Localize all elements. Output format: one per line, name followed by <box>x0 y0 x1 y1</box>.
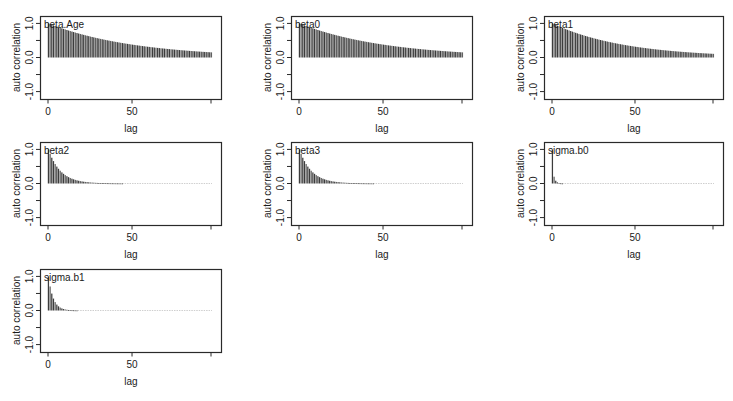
y-axis-label: auto correlation <box>262 23 273 92</box>
y-axis-label: auto correlation <box>11 149 22 218</box>
panel-title: beta2 <box>44 145 69 156</box>
y-tick-label: -1.0 <box>24 336 35 354</box>
y-tick-label: 1.0 <box>24 142 35 156</box>
x-tick-label: 50 <box>377 106 389 117</box>
x-axis: 050lag <box>549 226 713 260</box>
x-axis: 050lag <box>296 226 462 260</box>
y-tick-label: 0.0 <box>24 50 35 64</box>
y-tick-label: 1.0 <box>24 269 35 283</box>
y-tick-label: -1.0 <box>528 83 539 101</box>
x-tick-label: 0 <box>549 232 555 243</box>
x-tick-label: 0 <box>45 232 51 243</box>
y-axis-label: auto correlation <box>11 276 22 345</box>
y-axis-label: auto correlation <box>11 23 22 92</box>
acf-panel-beta3: beta3-1.00.01.0auto correlation050lag <box>262 142 473 259</box>
y-axis: -1.00.01.0auto correlation <box>11 269 40 353</box>
y-axis: -1.00.01.0auto correlation <box>515 142 544 226</box>
acf-panel-beta-Age: beta.Age-1.00.01.0auto correlation050lag <box>11 16 222 133</box>
y-tick-label: -1.0 <box>275 83 286 101</box>
acf-plot-grid: beta.Age-1.00.01.0auto correlation050lag… <box>0 0 733 401</box>
x-tick-label: 50 <box>126 106 138 117</box>
x-tick-label: 50 <box>629 232 641 243</box>
y-tick-label: -1.0 <box>528 209 539 227</box>
panel-title: sigma.b0 <box>548 145 589 156</box>
y-axis-label: auto correlation <box>515 149 526 218</box>
acf-bars <box>299 23 463 57</box>
acf-figure: beta.Age-1.00.01.0auto correlation050lag… <box>0 0 733 401</box>
panel-title: beta1 <box>548 19 573 30</box>
y-tick-label: 1.0 <box>275 16 286 30</box>
x-axis: 050lag <box>296 100 462 134</box>
y-tick-label: 1.0 <box>275 142 286 156</box>
y-tick-label: 0.0 <box>24 176 35 190</box>
acf-panel-beta2: beta2-1.00.01.0auto correlation050lag <box>11 142 222 259</box>
x-tick-label: 50 <box>377 232 389 243</box>
y-axis-label: auto correlation <box>262 149 273 218</box>
x-tick-label: 0 <box>296 106 302 117</box>
panel-title: sigma.b1 <box>44 272 85 283</box>
acf-panel-sigma-b0: sigma.b0-1.00.01.0auto correlation050lag <box>515 142 724 259</box>
acf-bars <box>48 149 212 184</box>
x-tick-label: 0 <box>45 106 51 117</box>
x-axis-label: lag <box>124 123 137 134</box>
acf-panel-sigma-b1: sigma.b1-1.00.01.0auto correlation050lag <box>11 269 222 386</box>
y-tick-label: 0.0 <box>528 50 539 64</box>
x-tick-label: 0 <box>549 106 555 117</box>
panel-title: beta.Age <box>44 19 84 30</box>
y-tick-label: 0.0 <box>528 176 539 190</box>
y-axis: -1.00.01.0auto correlation <box>262 142 291 226</box>
x-tick-label: 50 <box>126 232 138 243</box>
x-axis-label: lag <box>375 249 388 260</box>
x-axis: 050lag <box>45 353 211 387</box>
y-axis: -1.00.01.0auto correlation <box>262 16 291 100</box>
x-tick-label: 0 <box>45 359 51 370</box>
x-axis: 050lag <box>45 226 211 260</box>
y-tick-label: 0.0 <box>275 176 286 190</box>
x-axis-label: lag <box>627 123 640 134</box>
y-axis: -1.00.01.0auto correlation <box>515 16 544 100</box>
x-axis: 050lag <box>45 100 211 134</box>
y-tick-label: 0.0 <box>275 50 286 64</box>
y-axis: -1.00.01.0auto correlation <box>11 16 40 100</box>
acf-panel-beta1: beta1-1.00.01.0auto correlation050lag <box>515 16 724 133</box>
y-axis: -1.00.01.0auto correlation <box>11 142 40 226</box>
y-axis-label: auto correlation <box>515 23 526 92</box>
y-tick-label: -1.0 <box>24 83 35 101</box>
x-axis-label: lag <box>124 249 137 260</box>
panel-title: beta0 <box>295 19 320 30</box>
y-tick-label: 1.0 <box>528 142 539 156</box>
y-tick-label: 0.0 <box>24 303 35 317</box>
y-tick-label: 1.0 <box>528 16 539 30</box>
y-tick-label: -1.0 <box>24 209 35 227</box>
panel-title: beta3 <box>295 145 320 156</box>
y-tick-label: 1.0 <box>24 16 35 30</box>
x-tick-label: 50 <box>126 359 138 370</box>
x-axis-label: lag <box>375 123 388 134</box>
acf-panel-beta0: beta0-1.00.01.0auto correlation050lag <box>262 16 473 133</box>
y-tick-label: -1.0 <box>275 209 286 227</box>
x-tick-label: 50 <box>629 106 641 117</box>
x-tick-label: 0 <box>296 232 302 243</box>
acf-bars <box>552 23 714 57</box>
x-axis: 050lag <box>549 100 713 134</box>
acf-bars <box>299 149 463 184</box>
x-axis-label: lag <box>124 376 137 387</box>
x-axis-label: lag <box>627 249 640 260</box>
